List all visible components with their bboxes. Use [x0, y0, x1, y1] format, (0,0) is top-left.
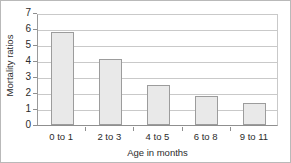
x-axis-tick-mark — [182, 127, 183, 131]
gridline — [38, 46, 277, 47]
bar — [51, 32, 74, 125]
x-axis-tick-label: 0 to 1 — [34, 132, 88, 142]
x-axis-title: Age in months — [37, 147, 278, 158]
y-axis-tick-label: 3 — [15, 72, 31, 82]
x-axis-tick-label: 2 to 3 — [82, 132, 136, 142]
y-axis-tick-label: 5 — [15, 40, 31, 50]
x-axis-tick-mark — [85, 127, 86, 131]
gridline — [38, 62, 277, 63]
plot-area — [37, 14, 278, 126]
x-axis-tick-label: 4 to 5 — [131, 132, 185, 142]
bar — [147, 85, 170, 125]
gridline — [38, 30, 277, 31]
y-axis-tick-label: 7 — [15, 8, 31, 18]
bar — [99, 59, 122, 125]
y-axis-tick-label: 6 — [15, 24, 31, 34]
y-axis-tick-label: 2 — [15, 88, 31, 98]
gridline — [38, 78, 277, 79]
bar — [195, 96, 218, 125]
x-axis-tick-mark — [230, 127, 231, 131]
bar-chart-figure: Mortality ratios 01234567 0 to 12 to 34 … — [0, 0, 291, 163]
x-axis-tick-mark — [133, 127, 134, 131]
x-axis-tick-label: 9 to 11 — [227, 132, 281, 142]
y-axis-tick-label: 1 — [15, 104, 31, 114]
y-axis-tick-label: 0 — [15, 120, 31, 130]
y-axis-tick-label: 4 — [15, 56, 31, 66]
y-axis-title-text: Mortality ratios — [5, 34, 16, 96]
bar — [243, 103, 266, 125]
x-axis-tick-label: 6 to 8 — [179, 132, 233, 142]
